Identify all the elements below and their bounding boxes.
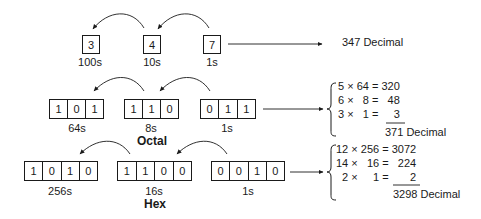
decimal-digit-box: 4 (143, 35, 161, 54)
hex-bit-group: 1 1 0 0 (117, 161, 192, 181)
carry-arc-icon (94, 77, 144, 91)
bit-cell: 1 (62, 162, 80, 180)
place-label: 64s (68, 122, 86, 134)
bit-cell: 0 (80, 162, 97, 180)
hex-calc-line: 12 × 256 = 3072 (336, 143, 416, 157)
bit-cell: 1 (219, 100, 237, 118)
decimal-digit-box: 3 (82, 35, 100, 54)
octal-calc-line: 3 × 1 = 3 (338, 108, 400, 122)
bit-cell: 1 (25, 162, 43, 180)
bit-cell: 1 (238, 100, 255, 118)
place-label: 1s (206, 56, 218, 68)
bit-cell: 1 (86, 100, 103, 118)
place-label: 1s (242, 185, 254, 197)
carry-arc-icon (80, 141, 130, 154)
decimal-result: 347 Decimal (342, 36, 403, 50)
octal-bit-group: 0 1 1 (200, 99, 256, 119)
bit-cell: 0 (267, 162, 284, 180)
decimal-digit-box: 7 (203, 35, 221, 54)
bit-cell: 0 (68, 100, 86, 118)
bit-cell: 1 (50, 100, 68, 118)
place-label: 256s (48, 185, 72, 197)
hex-result: 3298 Decimal (393, 188, 460, 202)
bit-cell: 0 (155, 162, 174, 180)
place-label: 8s (145, 122, 157, 134)
bit-cell: 1 (249, 162, 267, 180)
octal-title: Octal (137, 134, 167, 148)
hex-calc-line: 14 × 16 = 224 (336, 157, 416, 171)
hex-bit-group: 1 0 1 0 (24, 161, 98, 181)
bit-cell: 1 (137, 162, 156, 180)
carry-arc-icon (158, 14, 209, 29)
bit-cell: 0 (43, 162, 61, 180)
bit-cell: 0 (174, 162, 192, 180)
octal-bit-group: 1 0 1 (49, 99, 104, 119)
bit-cell: 0 (230, 162, 248, 180)
bit-cell: 1 (118, 162, 137, 180)
hex-calc-line: 2 × 1 = 2 (336, 171, 416, 185)
place-label: 1s (221, 122, 233, 134)
bit-cell: 0 (212, 162, 230, 180)
octal-bit-group: 1 1 0 (124, 99, 179, 119)
carry-arc-icon (160, 77, 210, 91)
octal-result: 371 Decimal (385, 126, 446, 140)
carry-arc-icon (177, 141, 227, 154)
bit-cell: 1 (143, 100, 161, 118)
place-label: 10s (143, 56, 161, 68)
octal-calc-line: 5 × 64 = 320 (338, 80, 400, 94)
brace-octal-icon (327, 83, 336, 136)
bit-cell: 0 (201, 100, 219, 118)
carry-arc-icon (93, 14, 144, 29)
bit-cell: 0 (161, 100, 178, 118)
brace-hex-icon (327, 145, 336, 200)
place-label: 100s (78, 56, 102, 68)
place-label: 16s (145, 185, 163, 197)
hex-title: Hex (144, 197, 166, 211)
octal-calc-line: 6 × 8 = 48 (338, 94, 400, 108)
hex-bit-group: 0 0 1 0 (211, 161, 285, 181)
bit-cell: 1 (125, 100, 143, 118)
